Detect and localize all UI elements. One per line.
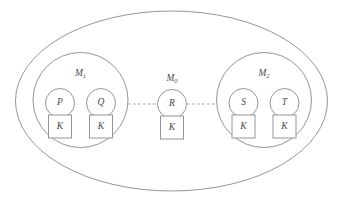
key-label-p: K <box>56 121 64 131</box>
module-label-m2: M2 <box>257 68 270 79</box>
node-group-r: R K <box>158 90 187 140</box>
node-group-s: S K <box>229 89 258 139</box>
key-label-t: K <box>280 121 288 131</box>
node-group-p: P K <box>46 89 75 139</box>
key-label-s: K <box>239 121 247 131</box>
node-label-s: S <box>241 97 246 107</box>
module-group-m2: M2 S K T K <box>217 53 312 148</box>
module-label-m0: M0 <box>165 73 178 84</box>
module-label-m1: M1 <box>74 68 86 79</box>
node-group-q: Q K <box>87 89 116 139</box>
diagram-root: M1 P K Q K M0 R K <box>0 0 343 204</box>
node-label-r: R <box>168 98 175 108</box>
key-label-r: K <box>168 122 176 132</box>
module-group-m1: M1 P K Q K <box>33 53 128 148</box>
module-group-m0: M0 R K <box>158 73 187 139</box>
node-group-t: T K <box>270 89 299 139</box>
node-label-q: Q <box>98 97 105 107</box>
node-label-t: T <box>282 97 288 107</box>
node-label-p: P <box>56 97 63 107</box>
key-label-q: K <box>97 121 105 131</box>
diagram-canvas: M1 P K Q K M0 R K <box>0 0 343 204</box>
